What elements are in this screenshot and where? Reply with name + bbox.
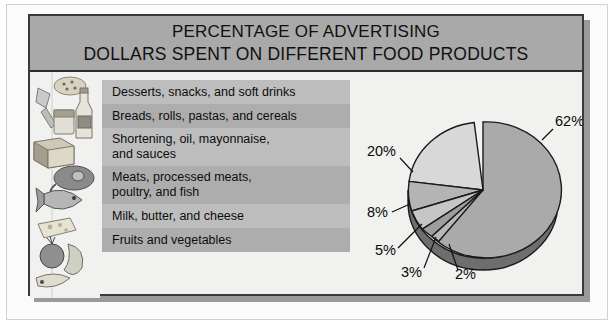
legend-item-fruits[interactable]: Fruits and vegetables xyxy=(102,228,350,252)
legend-item-milk[interactable]: Milk, butter, and cheese xyxy=(102,204,350,228)
legend-item-label: Fruits and vegetables xyxy=(112,233,232,248)
chart-title-line-2: DOLLARS SPENT ON DIFFERENT FOOD PRODUCTS xyxy=(84,43,529,65)
pie-label-62: 62% xyxy=(555,113,582,129)
chart-title-line-1: PERCENTAGE OF ADVERTISING xyxy=(172,21,440,43)
chart-page: PERCENTAGE OF ADVERTISING DOLLARS SPENT … xyxy=(0,0,614,325)
pie-label-8: 8% xyxy=(367,204,388,220)
slice-20[interactable] xyxy=(409,123,483,191)
legend-item-desserts[interactable]: Desserts, snacks, and soft drinks xyxy=(102,80,350,104)
pie-label-3: 3% xyxy=(401,264,422,280)
pie-label-5: 5% xyxy=(375,242,396,258)
legend-list: Desserts, snacks, and soft drinks Breads… xyxy=(102,80,350,252)
pie-slices xyxy=(408,122,561,258)
pie-label-2: 2% xyxy=(455,266,476,282)
legend-item-label: Milk, butter, and cheese xyxy=(112,209,244,224)
pie-chart: 62% 20% 8% 5% 3% 2% xyxy=(350,72,582,298)
can-icon xyxy=(54,110,74,134)
legend-item-label: Shortening, oil, mayonnaise, and sauces xyxy=(112,132,270,162)
legend-item-label: Desserts, snacks, and soft drinks xyxy=(112,85,295,100)
food-illustration-collage xyxy=(30,72,100,298)
legend-item-meats[interactable]: Meats, processed meats, poultry, and fis… xyxy=(102,166,350,204)
bread-loaf-icon xyxy=(34,138,74,168)
legend-item-label: Breads, rolls, pastas, and cereals xyxy=(112,109,297,124)
legend-item-shortening[interactable]: Shortening, oil, mayonnaise, and sauces xyxy=(102,128,350,166)
chart-body: Desserts, snacks, and soft drinks Breads… xyxy=(30,72,582,294)
chart-panel: PERCENTAGE OF ADVERTISING DOLLARS SPENT … xyxy=(28,14,584,296)
pie-label-20: 20% xyxy=(367,143,396,159)
legend-item-label: Meats, processed meats, poultry, and fis… xyxy=(112,170,252,200)
chart-title-band: PERCENTAGE OF ADVERTISING DOLLARS SPENT … xyxy=(30,16,582,72)
legend-item-breads[interactable]: Breads, rolls, pastas, and cereals xyxy=(102,104,350,128)
